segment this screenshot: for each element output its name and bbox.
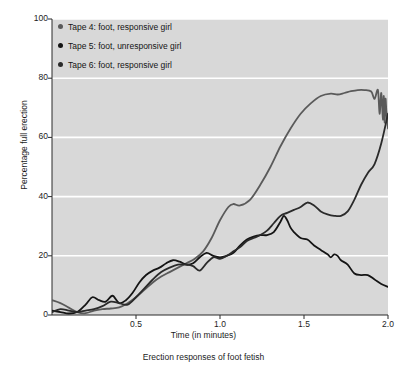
legend-item-1[interactable]: Tape 4: foot, responsive girl <box>58 18 181 35</box>
legend-item-label: Tape 5: foot, unresponsive girl <box>68 41 181 51</box>
legend-marker-icon <box>58 24 63 29</box>
x-tick-label-1.5: 1.5 <box>284 319 324 329</box>
chart-legend: Tape 4: foot, responsive girlTape 5: foo… <box>58 18 181 75</box>
x-axis-ticks: 0.51.01.52.0 <box>0 316 407 332</box>
legend-item-label: Tape 6: foot, responsive girl <box>68 60 172 70</box>
legend-item-3[interactable]: Tape 6: foot, responsive girl <box>58 56 181 73</box>
legend-marker-icon <box>58 43 63 48</box>
x-tick-label-2.0: 2.0 <box>368 319 407 329</box>
y-tick-label-100: 100 <box>18 13 48 23</box>
legend-item-2[interactable]: Tape 5: foot, unresponsive girl <box>58 37 181 54</box>
y-tick-label-40: 40 <box>18 191 48 201</box>
legend-item-label: Tape 4: foot, responsive girl <box>68 22 172 32</box>
y-tick-label-60: 60 <box>18 131 48 141</box>
y-tick-label-20: 20 <box>18 250 48 260</box>
x-tick-label-0.5: 0.5 <box>116 319 156 329</box>
chart-caption: Erection responses of foot fetish <box>0 352 407 362</box>
legend-marker-icon <box>58 62 63 67</box>
y-tick-label-80: 80 <box>18 72 48 82</box>
chart-figure: Percentage full erection Time (in minute… <box>0 0 407 375</box>
x-tick-label-1.0: 1.0 <box>200 319 240 329</box>
